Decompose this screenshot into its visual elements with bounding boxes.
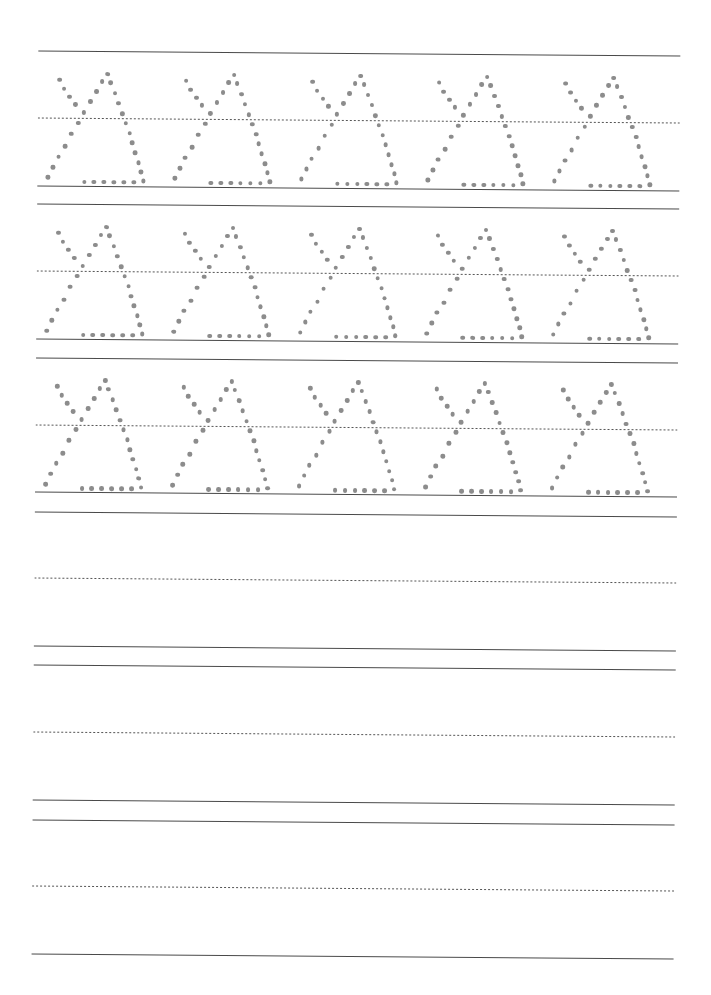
trace-dot	[435, 310, 440, 315]
trace-dot	[268, 179, 273, 184]
trace-dot	[172, 176, 177, 181]
trace-dot	[309, 233, 314, 238]
trace-dot	[69, 132, 74, 137]
trace-dot	[606, 83, 611, 88]
trace-dot	[571, 405, 576, 410]
trace-dot	[215, 100, 220, 105]
trace-dot	[461, 113, 466, 118]
trace-dot	[244, 419, 249, 424]
trace-dot	[129, 487, 134, 492]
trace-dot	[343, 488, 348, 493]
trace-dot	[638, 307, 643, 312]
trace-dot	[501, 430, 506, 435]
trace-dot	[136, 476, 141, 481]
trace-dot	[460, 266, 465, 271]
trace-dot	[241, 409, 246, 414]
dashed-midline	[38, 117, 680, 123]
trace-dot	[511, 183, 516, 188]
trace-dot	[319, 250, 324, 255]
trace-dot	[491, 183, 496, 188]
trace-dot	[626, 115, 631, 120]
trace-dot	[80, 264, 85, 269]
trace-dot	[239, 92, 244, 97]
trace-dot	[630, 125, 635, 130]
trace-dot	[608, 184, 613, 189]
trace-dot	[575, 135, 580, 140]
trace-dot	[424, 331, 429, 336]
trace-dot	[566, 397, 571, 402]
trace-dot	[184, 78, 189, 83]
trace-dot	[94, 89, 99, 94]
trace-dot	[260, 468, 265, 473]
trace-dot	[257, 334, 262, 339]
trace-dot	[387, 469, 392, 474]
trace-dot	[237, 398, 242, 403]
trace-dot	[600, 93, 605, 98]
trace-dot	[388, 315, 393, 320]
trace-dot	[434, 464, 439, 469]
trace-dot	[102, 180, 107, 185]
trace-dot	[234, 234, 239, 239]
trace-dot	[344, 335, 349, 340]
trace-dot	[333, 488, 338, 493]
trace-dot	[365, 182, 370, 187]
trace-dot	[265, 486, 270, 491]
trace-dot	[190, 145, 195, 150]
trace-dot	[257, 142, 262, 147]
trace-dot	[503, 124, 508, 129]
trace-dot	[437, 80, 442, 85]
trace-dot	[242, 255, 247, 260]
trace-dot	[57, 77, 62, 82]
trace-dot	[507, 134, 512, 139]
trace-dot	[308, 386, 313, 391]
trace-dot	[639, 154, 644, 159]
trace-dot	[495, 257, 500, 262]
trace-dot	[304, 167, 309, 172]
trace-dot	[198, 256, 203, 261]
trace-dot	[440, 454, 445, 459]
trace-dot	[582, 124, 587, 129]
trace-dot	[123, 121, 128, 126]
trace-dot	[136, 160, 141, 165]
trace-dot	[248, 429, 253, 434]
trace-dot	[377, 123, 382, 128]
trace-dot	[472, 399, 477, 404]
trace-dot	[597, 337, 602, 342]
trace-dot	[612, 76, 617, 81]
trace-dot	[187, 241, 192, 246]
trace-dot	[386, 152, 391, 157]
trace-dot	[488, 83, 493, 88]
trace-dot	[315, 299, 320, 304]
trace-dot	[450, 412, 455, 417]
trace-dot	[513, 153, 518, 158]
trace-dot	[303, 320, 308, 325]
trace-dot	[560, 465, 565, 470]
trace-dot	[265, 170, 270, 175]
trace-dot	[208, 111, 213, 116]
trace-dot	[192, 402, 197, 407]
trace-dot	[345, 182, 350, 187]
trace-dot	[480, 336, 485, 341]
trace-dot	[353, 81, 358, 86]
trace-dot	[366, 93, 371, 98]
trace-dot	[313, 395, 318, 400]
trace-dot	[467, 255, 472, 260]
trace-dot	[436, 233, 441, 238]
trace-dot	[119, 264, 124, 269]
trace-dot	[351, 388, 356, 393]
trace-dot	[506, 287, 511, 292]
trace-dot	[139, 169, 144, 174]
trace-dot	[134, 467, 139, 472]
trace-dot	[637, 461, 642, 466]
trace-dot	[363, 399, 368, 404]
writing-rows	[4, 0, 711, 3]
trace-dot	[562, 234, 567, 239]
trace-dot	[314, 242, 319, 247]
trace-dot	[645, 489, 650, 494]
trace-dot	[614, 237, 619, 242]
trace-dot	[87, 253, 92, 258]
trace-dot	[577, 413, 582, 418]
trace-dot	[91, 333, 96, 338]
trace-dot	[75, 274, 80, 279]
trace-dot	[428, 474, 433, 479]
